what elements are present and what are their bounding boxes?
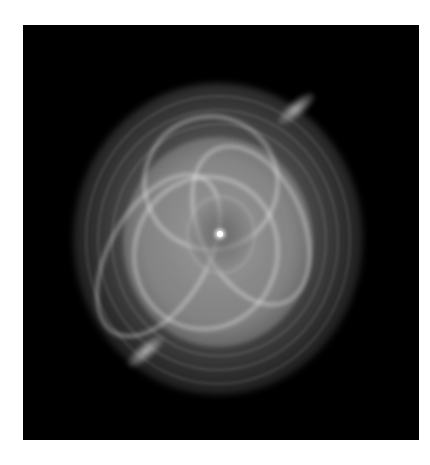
central-star — [217, 231, 223, 237]
nebula-photo — [23, 25, 419, 440]
